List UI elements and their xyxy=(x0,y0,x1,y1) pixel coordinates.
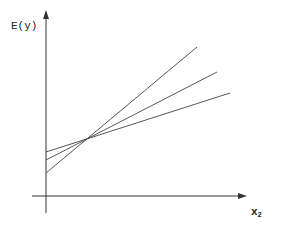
line-steep xyxy=(46,47,197,173)
x-axis-label: x2 xyxy=(251,206,262,219)
y-axis-label: E(y) xyxy=(11,20,37,32)
x-axis-arrow-icon xyxy=(238,193,247,199)
line-shallow xyxy=(46,93,230,152)
y-axis-arrow-icon xyxy=(43,10,49,19)
line-middle xyxy=(46,72,217,160)
x-axis-label-subscript: 2 xyxy=(258,211,262,219)
interaction-diagram: E(y) x2 xyxy=(0,0,286,225)
